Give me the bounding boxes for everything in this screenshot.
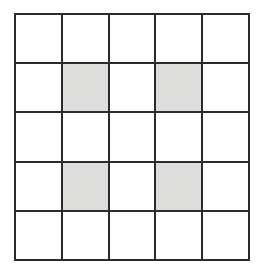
grid-cell-empty[interactable] [155,14,202,63]
grid-cell-empty[interactable] [109,63,156,112]
grid-cell-shaded[interactable] [155,63,202,112]
grid-cell-empty[interactable] [15,211,62,260]
grid-cell-empty[interactable] [202,162,249,211]
grid-row [15,162,249,211]
grid-cell-empty[interactable] [109,211,156,260]
grid-cell-empty[interactable] [155,112,202,161]
grid-cell-empty[interactable] [62,112,109,161]
grid-cell-empty[interactable] [15,162,62,211]
grid-cell-empty[interactable] [202,14,249,63]
grid-cell-empty[interactable] [109,14,156,63]
grid-cell-empty[interactable] [62,211,109,260]
grid-row [15,14,249,63]
grid-row [15,63,249,112]
grid-cell-empty[interactable] [15,63,62,112]
grid-cell-empty[interactable] [62,14,109,63]
grid-cell-shaded[interactable] [62,63,109,112]
grid-table [14,13,250,261]
grid-row [15,211,249,260]
grid-cell-empty[interactable] [15,14,62,63]
grid-cell-empty[interactable] [155,211,202,260]
grid-cell-empty[interactable] [202,211,249,260]
grid-cell-empty[interactable] [109,112,156,161]
grid-cell-shaded[interactable] [155,162,202,211]
grid-cell-empty[interactable] [109,162,156,211]
grid-cell-empty[interactable] [202,112,249,161]
grid-cell-empty[interactable] [202,63,249,112]
grid-cell-empty[interactable] [15,112,62,161]
grid-row [15,112,249,161]
grid-cell-shaded[interactable] [62,162,109,211]
grid-figure [14,13,250,261]
grid-body [15,14,249,260]
